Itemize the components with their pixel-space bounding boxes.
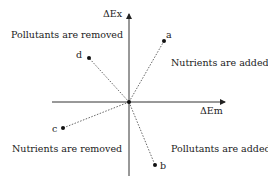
quadrant-bottom-left-label: Nutrients are removed — [12, 144, 122, 154]
quadrant-bottom-right-label: Pollutants are added — [171, 144, 268, 154]
point-d-label: d — [76, 50, 82, 60]
vector-d — [89, 58, 129, 102]
vector-b — [129, 102, 155, 165]
vector-a — [129, 41, 164, 102]
quadrant-top-right-label: Nutrients are added — [171, 58, 268, 68]
point-b — [153, 163, 157, 167]
point-c-label: c — [52, 124, 57, 134]
y-axis-label: ΔEx — [103, 9, 122, 19]
vector-c — [63, 102, 129, 128]
point-d — [87, 56, 91, 60]
x-axis-label: ΔEm — [200, 106, 223, 116]
diagram-canvas — [0, 0, 268, 182]
point-a-label: a — [166, 30, 172, 40]
point-b-label: b — [160, 161, 166, 171]
point-c — [61, 126, 65, 130]
quadrant-top-left-label: Pollutants are removed — [11, 30, 123, 40]
origin-point — [127, 100, 131, 104]
